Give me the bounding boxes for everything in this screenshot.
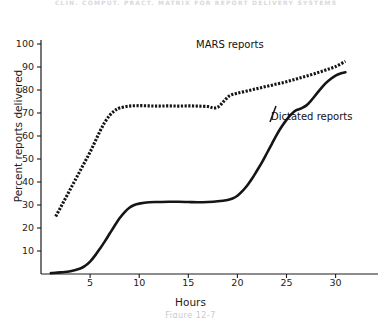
chart-plot-area <box>0 0 381 318</box>
y-axis-tick-label: 30 <box>8 200 34 210</box>
x-axis-tick-label: 10 <box>127 278 151 288</box>
x-axis-tick-label: 25 <box>275 278 299 288</box>
chart-svg <box>0 0 381 318</box>
x-axis-tick-label: 15 <box>176 278 200 288</box>
y-axis-tick-label: 20 <box>8 223 34 233</box>
x-axis-tick-label: 5 <box>78 278 102 288</box>
chart-series-group <box>51 61 346 273</box>
figure-container: CLIN. COMPUT. PRACT. MATRIX FOR REPORT D… <box>0 0 381 318</box>
x-axis-tick-label: 30 <box>324 278 348 288</box>
chart-axes <box>37 40 378 278</box>
series-line-dictated <box>51 72 346 273</box>
x-axis-tick-label: 20 <box>225 278 249 288</box>
y-axis-tick-label: 40 <box>8 177 34 187</box>
y-axis-tick-label: 10 <box>8 246 34 256</box>
series-label-dictated: Dictated reports <box>271 111 352 122</box>
y-axis-tick-label: 50 <box>8 154 34 164</box>
y-axis-tick-label: 80 <box>8 85 34 95</box>
x-axis-title: Hours <box>0 296 381 308</box>
y-axis-tick-label: 70 <box>8 108 34 118</box>
y-axis-tick-label: 60 <box>8 131 34 141</box>
y-axis-tick-label: 90 <box>8 62 34 72</box>
series-line-mars <box>56 61 346 216</box>
y-axis-tick-label: 100 <box>8 39 34 49</box>
figure-caption: Figure 12-7 <box>0 311 381 318</box>
series-label-mars: MARS reports <box>196 39 264 50</box>
